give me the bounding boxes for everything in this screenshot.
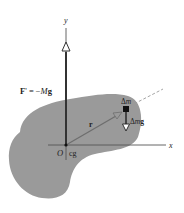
force-label: F' = −Mg [20, 86, 53, 96]
rigid-body-shape [9, 94, 141, 198]
mass-element-square [123, 106, 129, 112]
rigid-body-center-of-gravity-diagram: y x F' = −Mg r Δm Δmg O cg [0, 0, 184, 213]
center-of-gravity-label: cg [69, 149, 77, 158]
origin-point [64, 143, 67, 146]
force-vector-arrowhead-icon [62, 42, 70, 51]
position-vector-label: r [89, 120, 93, 129]
origin-label: O [57, 148, 63, 158]
weight-element-label: Δmg [130, 117, 144, 126]
y-axis-label: y [63, 16, 68, 25]
mass-element-label: Δm [121, 97, 132, 106]
x-axis-label: x [168, 141, 173, 150]
line-of-action-dashed [130, 89, 163, 106]
